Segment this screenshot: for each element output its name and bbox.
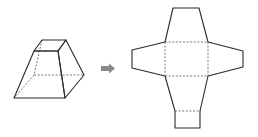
frustum-top-face bbox=[34, 40, 66, 51]
diagram-canvas bbox=[0, 0, 258, 137]
hidden-edge bbox=[14, 75, 34, 98]
frustum-solid bbox=[14, 40, 84, 98]
net-outline bbox=[132, 8, 243, 128]
frustum-right-face bbox=[58, 40, 84, 98]
right-arrow-icon bbox=[101, 64, 115, 74]
frustum-front-face bbox=[14, 51, 65, 98]
frustum-net bbox=[132, 8, 243, 128]
